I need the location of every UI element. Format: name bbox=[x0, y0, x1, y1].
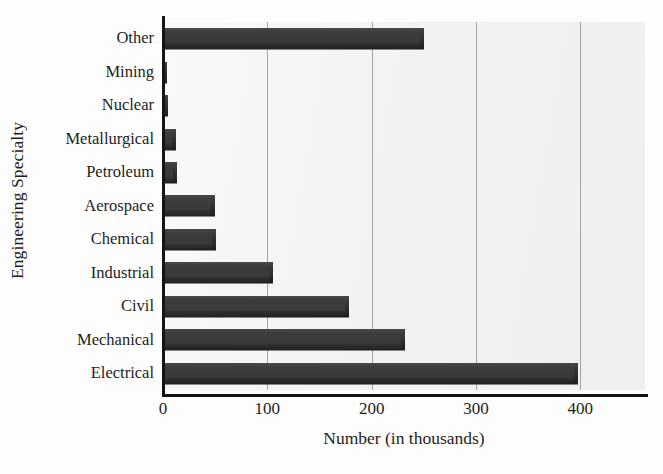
y-axis-tick-label: Industrial bbox=[36, 256, 160, 289]
y-axis-tick-label: Mechanical bbox=[36, 323, 160, 356]
bar bbox=[163, 195, 215, 216]
bar bbox=[163, 129, 176, 150]
y-axis-tick-label: Electrical bbox=[36, 357, 160, 390]
bar-row bbox=[163, 122, 176, 155]
y-axis-tick-label: Civil bbox=[36, 290, 160, 323]
x-axis-tick-labels: 0100200300400 bbox=[0, 400, 663, 428]
x-axis-tick-label: 300 bbox=[463, 400, 489, 417]
plot-area bbox=[163, 22, 645, 390]
bar-row bbox=[163, 256, 273, 289]
y-axis-title: Engineering Specialty bbox=[0, 0, 36, 400]
y-axis-title-text: Engineering Specialty bbox=[8, 121, 29, 278]
y-axis-tick-label: Metallurgical bbox=[36, 122, 160, 155]
x-axis-tick-label: 400 bbox=[568, 400, 594, 417]
x-axis-tick-label: 200 bbox=[359, 400, 385, 417]
y-axis-tick-label: Nuclear bbox=[36, 89, 160, 122]
bar-row bbox=[163, 223, 216, 256]
bar-row bbox=[163, 22, 424, 55]
x-axis-tick-label: 0 bbox=[159, 400, 168, 417]
chart-page: Engineering Specialty OtherMiningNuclear… bbox=[0, 0, 663, 474]
x-axis-tick-label: 100 bbox=[255, 400, 281, 417]
bar bbox=[163, 28, 424, 49]
y-axis-tick-label: Aerospace bbox=[36, 189, 160, 222]
bar-series bbox=[163, 22, 645, 390]
y-axis-tick-label: Other bbox=[36, 22, 160, 55]
bar bbox=[163, 162, 177, 183]
bar-row bbox=[163, 156, 177, 189]
bar-row bbox=[163, 189, 215, 222]
x-axis-line bbox=[162, 394, 648, 397]
y-axis-tick-label: Mining bbox=[36, 55, 160, 88]
bar bbox=[163, 262, 273, 283]
y-axis-line bbox=[162, 16, 165, 396]
bar bbox=[163, 329, 405, 350]
bar-row bbox=[163, 290, 349, 323]
y-axis-tick-labels: OtherMiningNuclearMetallurgicalPetroleum… bbox=[36, 22, 160, 390]
bar bbox=[163, 296, 349, 317]
y-axis-tick-label: Chemical bbox=[36, 223, 160, 256]
bar-row bbox=[163, 357, 578, 390]
bar-row bbox=[163, 323, 405, 356]
y-axis-tick-label: Petroleum bbox=[36, 156, 160, 189]
bar bbox=[163, 363, 578, 384]
bar bbox=[163, 229, 216, 250]
x-axis-title: Number (in thousands) bbox=[163, 428, 645, 449]
